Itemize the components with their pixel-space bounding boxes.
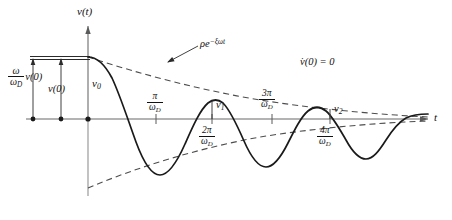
envelope-equation-label: ρe−ξωt <box>200 38 225 50</box>
damped-vibration-figure: v(t) t ω ωD v(0) v(0) v0 ρe−ξωt v̇(0) = … <box>0 0 452 220</box>
initial-velocity-condition-label: v̇(0) = 0 <box>300 57 335 68</box>
y-axis-label: v(t) <box>77 6 92 17</box>
v-zero-factor: v(0) <box>24 72 42 83</box>
omega-numerator: ω <box>8 66 24 76</box>
peak-label-v2: v2 <box>334 104 342 115</box>
x-axis-label: t <box>434 112 437 123</box>
y-axis-arrowhead <box>85 26 90 34</box>
upper-envelope-curve <box>88 57 428 117</box>
peak-label-v1: v1 <box>216 100 224 111</box>
initial-velocity-ratio-label: ω ωD v(0) <box>8 66 42 89</box>
y-axis <box>85 26 90 196</box>
tick-label-pi-over-omegaD: π ωD <box>147 92 163 113</box>
lower-envelope-curve <box>88 121 428 188</box>
omega-d-denominator: ωD <box>8 76 24 89</box>
tick-label-2pi-over-omegaD: 2π ωD <box>199 126 215 147</box>
response-curve <box>88 57 428 175</box>
initial-displacement-label: v(0) <box>48 84 65 95</box>
envelope-label-leader <box>167 46 198 63</box>
amplitude-v0-label: v0 <box>92 78 101 91</box>
initial-condition-reference-lines <box>30 57 90 60</box>
tick-label-3pi-over-omegaD: 3π ωD <box>259 89 275 110</box>
tick-label-4pi-over-omegaD: 4π ωD <box>317 126 333 147</box>
plot-canvas <box>0 0 452 220</box>
